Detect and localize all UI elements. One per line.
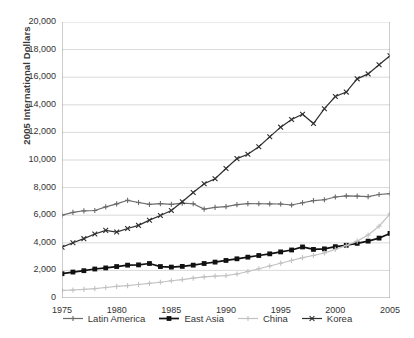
legend-item-latin-america[interactable]: Latin America <box>62 313 146 324</box>
y-tick-label: 10,000 <box>0 154 56 164</box>
y-tick-label: 12,000 <box>0 126 56 136</box>
series-china <box>62 211 390 293</box>
y-tick-label: 2,000 <box>0 264 56 274</box>
y-axis-title: 2005 International Dollars <box>21 6 32 166</box>
chart-container: 2005 International Dollars 02,0004,0006,… <box>0 0 414 338</box>
y-tick-label: 16,000 <box>0 71 56 81</box>
chart-legend: Latin AmericaEast AsiaChinaKorea <box>0 313 414 324</box>
series-east-asia <box>62 231 390 276</box>
y-tick-label: 6,000 <box>0 209 56 219</box>
legend-marker-plus-icon <box>62 313 84 324</box>
series-korea <box>62 53 390 249</box>
series-lines <box>62 53 390 293</box>
legend-marker-plus-icon <box>237 313 259 324</box>
legend-item-east-asia[interactable]: East Asia <box>158 313 224 324</box>
y-tick-label: 8,000 <box>0 182 56 192</box>
legend-item-korea[interactable]: Korea <box>301 313 352 324</box>
legend-label: East Asia <box>184 313 224 324</box>
legend-marker-x-icon <box>301 313 323 324</box>
y-tick-label: 20,000 <box>0 16 56 26</box>
legend-label: Latin America <box>88 313 146 324</box>
legend-item-china[interactable]: China <box>237 313 288 324</box>
legend-label: Korea <box>327 313 352 324</box>
series-latin-america <box>62 191 390 218</box>
y-tick-label: 18,000 <box>0 44 56 54</box>
grid-lines <box>62 22 390 298</box>
plot-area <box>62 22 390 298</box>
legend-label: China <box>263 313 288 324</box>
y-tick-label: 14,000 <box>0 99 56 109</box>
legend-marker-square-icon <box>158 313 180 324</box>
y-tick-label: 0 <box>0 292 56 302</box>
y-tick-label: 4,000 <box>0 237 56 247</box>
